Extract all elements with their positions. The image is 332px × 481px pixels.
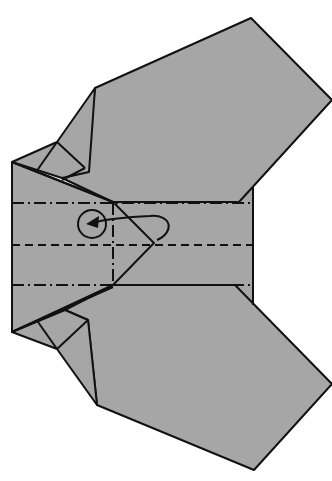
origami-diagram	[0, 0, 332, 481]
upper-wing	[62, 18, 332, 202]
lower-wing	[65, 285, 332, 470]
